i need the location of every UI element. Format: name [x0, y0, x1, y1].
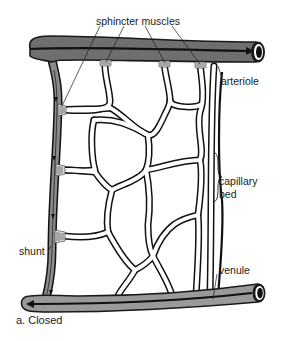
sphincter-top-3	[195, 62, 206, 68]
diagram-canvas	[0, 0, 281, 341]
sphincter-shunt-3	[55, 230, 65, 243]
capillary-bed-diagram: sphincter muscles arteriole capillary be…	[0, 0, 281, 341]
venule-vessel	[21, 284, 265, 313]
label-capillary-bed-line2: bed	[219, 189, 237, 200]
arteriole-vessel	[30, 36, 265, 63]
sphincter-muscles	[55, 60, 206, 243]
sphincter-top-1	[100, 60, 111, 66]
sphincter-shunt-2	[56, 164, 65, 176]
capillary-network	[64, 62, 214, 296]
label-capillary-bed-line1: capillary	[219, 176, 258, 187]
shunt-vessel	[46, 60, 58, 298]
figure-caption: a. Closed	[16, 315, 62, 326]
label-arteriole: arteriole	[221, 76, 259, 87]
label-shunt: shunt	[19, 246, 45, 257]
label-sphincter-muscles: sphincter muscles	[96, 16, 180, 27]
label-venule: venule	[219, 265, 250, 276]
